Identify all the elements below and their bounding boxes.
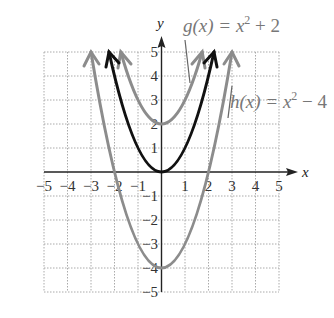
- svg-text:−1: −1: [142, 188, 158, 204]
- svg-text:5: 5: [275, 178, 283, 194]
- g-function-label: g(x) = x2 + 2: [183, 13, 280, 37]
- svg-text:−3: −3: [83, 178, 99, 194]
- function-graph: x y −5 −4 −3 −2 −1 1 2 3 4 5 5 4 3 2 1 −…: [0, 0, 334, 318]
- svg-text:−3: −3: [142, 236, 158, 252]
- g-leader-line: [185, 40, 190, 83]
- h-function-label: h(x) = x2 − 4: [230, 89, 328, 113]
- svg-text:−2: −2: [142, 212, 158, 228]
- svg-text:1: 1: [151, 140, 159, 156]
- svg-text:3: 3: [151, 92, 159, 108]
- svg-text:4: 4: [252, 178, 260, 194]
- svg-text:3: 3: [228, 178, 236, 194]
- svg-text:1: 1: [181, 178, 189, 194]
- x-axis-label: x: [301, 164, 309, 180]
- svg-text:4: 4: [151, 68, 159, 84]
- axes: [44, 36, 298, 292]
- svg-text:−4: −4: [60, 178, 76, 194]
- svg-text:−5: −5: [142, 284, 158, 300]
- y-axis-label: y: [155, 15, 164, 31]
- svg-text:−5: −5: [36, 178, 52, 194]
- x-tick-labels: −5 −4 −3 −2 −1 1 2 3 4 5: [36, 178, 283, 194]
- svg-text:5: 5: [151, 44, 159, 60]
